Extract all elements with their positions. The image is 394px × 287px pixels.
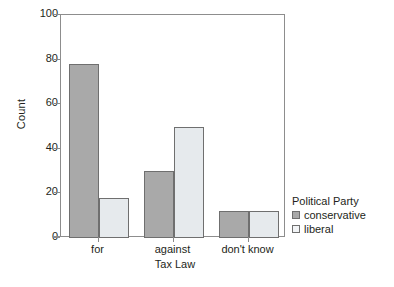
legend-item-label: liberal (304, 223, 333, 235)
x-axis-tick-mark (248, 237, 249, 242)
bar-chart: Count 020406080100 foragainstdon't know … (0, 0, 394, 287)
legend-item: conservative (292, 208, 392, 222)
legend: Political Party conservativeliberal (292, 194, 392, 236)
bar-liberal-don-t-know (249, 211, 279, 238)
legend-title: Political Party (292, 194, 392, 208)
bar-conservative-for (69, 64, 99, 238)
bar-conservative-against (144, 171, 174, 238)
y-axis-tick-label: 40 (18, 142, 58, 153)
y-axis-tick-label: 100 (18, 8, 58, 19)
x-axis-baseline-extension (52, 236, 61, 237)
y-axis-tick-label: 20 (18, 186, 58, 197)
legend-swatch-icon (292, 225, 300, 233)
y-axis-tick-mark (54, 237, 60, 238)
legend-item: liberal (292, 222, 392, 236)
x-axis-tick-mark (98, 237, 99, 242)
y-axis-tick-label: 60 (18, 97, 58, 108)
x-axis-tick-mark (173, 237, 174, 242)
bar-conservative-don-t-know (219, 211, 249, 238)
legend-swatch-icon (292, 211, 300, 219)
bar-liberal-for (99, 198, 129, 238)
legend-item-label: conservative (304, 209, 366, 221)
plot-area (60, 14, 285, 237)
x-axis-title: Tax Law (125, 258, 225, 270)
bar-liberal-against (174, 127, 204, 239)
y-axis-tick-label: 80 (18, 53, 58, 64)
x-axis-category-label: don't know (203, 243, 293, 256)
legend-entries: conservativeliberal (292, 208, 392, 236)
